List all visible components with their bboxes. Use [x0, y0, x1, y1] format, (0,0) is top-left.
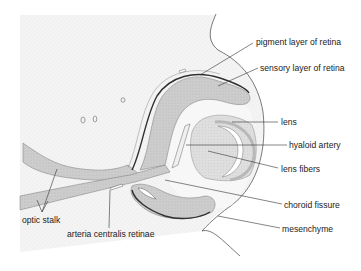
label-choroid-fissure: choroid fissure	[284, 200, 340, 210]
leader-mesenchyme	[218, 216, 280, 228]
label-sensory-layer: sensory layer of retina	[260, 63, 345, 73]
label-pigment-layer: pigment layer of retina	[256, 37, 341, 47]
label-mesenchyme: mesenchyme	[282, 224, 333, 234]
eye-development-diagram: pigment layer of retina sensory layer of…	[0, 0, 361, 271]
label-hyaloid-artery: hyaloid artery	[289, 140, 341, 150]
label-optic-stalk: optic stalk	[22, 215, 61, 225]
label-lens: lens	[281, 117, 297, 127]
label-arteria-centralis: arteria centralis retinae	[67, 229, 155, 239]
label-lens-fibers: lens fibers	[281, 164, 320, 174]
